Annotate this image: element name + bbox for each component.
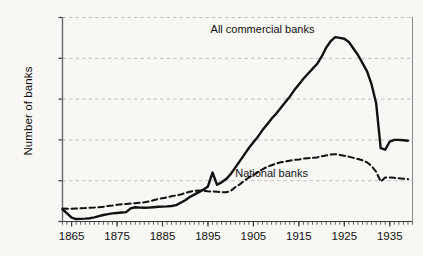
data-series: [63, 37, 408, 219]
bank-count-line-chart: Number of banks 05,00010,00015,00020,000…: [0, 0, 423, 256]
series-line-all-commercial-banks: [63, 37, 408, 219]
axis-major-ticks: [59, 18, 390, 227]
series-label-all-commercial-banks: All commercial banks: [211, 23, 315, 35]
series-line-national-banks: [63, 154, 408, 209]
gridlines: [63, 18, 413, 222]
plot-area: [0, 0, 423, 256]
series-label-national-banks: National banks: [235, 167, 308, 179]
